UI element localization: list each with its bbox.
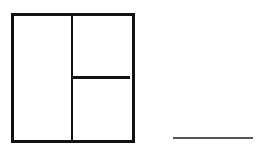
horizontal-divider [72,76,130,79]
panel-top-right [73,16,129,76]
panel-left [14,16,71,137]
panel-bottom-right [73,79,129,137]
separate-horizontal-line [173,137,253,139]
